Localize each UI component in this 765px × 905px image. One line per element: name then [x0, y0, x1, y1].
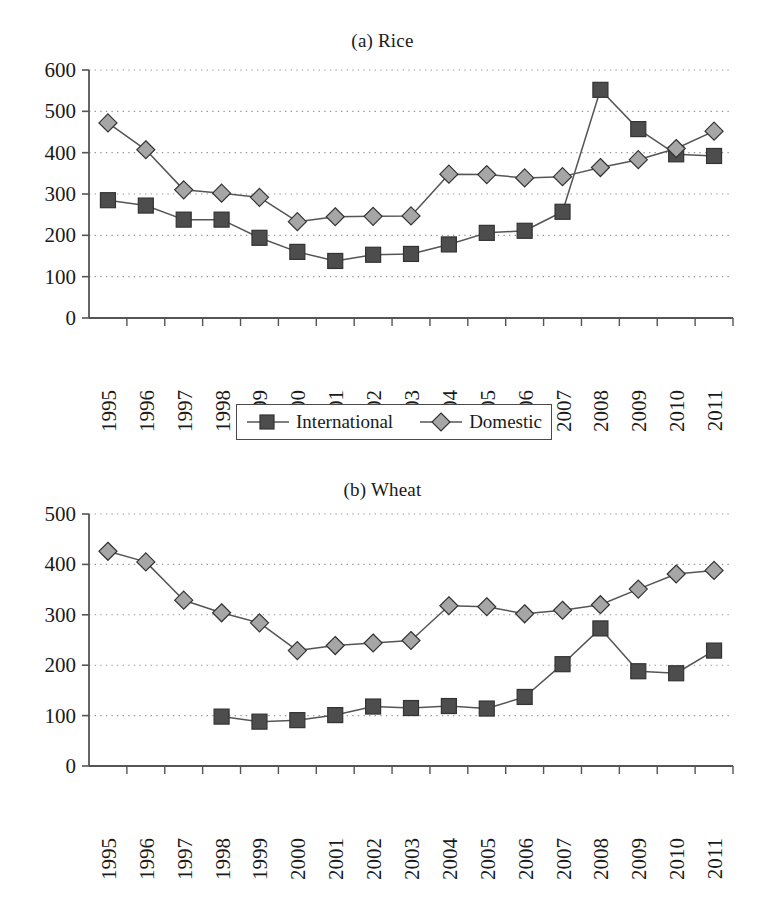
y-tick-label: 200 — [45, 223, 77, 247]
square-marker — [441, 699, 456, 714]
diamond-marker — [629, 151, 647, 169]
diamond-marker — [591, 159, 609, 177]
square-marker — [366, 699, 381, 714]
y-tick-label: 200 — [45, 653, 77, 677]
y-tick-label: 300 — [45, 603, 77, 627]
square-marker — [404, 701, 419, 716]
diamond-marker — [288, 642, 306, 660]
square-marker — [252, 714, 267, 729]
y-tick-label: 100 — [45, 704, 77, 728]
diamond-marker — [667, 565, 685, 583]
y-tick-label: 300 — [45, 182, 77, 206]
y-tick-label: 500 — [45, 502, 77, 526]
diamond-marker — [213, 604, 231, 622]
diamond-marker — [516, 605, 534, 623]
square-marker — [707, 643, 722, 658]
x-tick-label: 2001 — [324, 838, 348, 880]
square-marker-icon — [246, 413, 290, 431]
y-tick-label: 100 — [45, 265, 77, 289]
diamond-marker — [326, 637, 344, 655]
diamond-marker — [364, 207, 382, 225]
square-marker — [631, 664, 646, 679]
diamond-marker — [326, 208, 344, 226]
x-tick-label: 2004 — [438, 838, 462, 881]
x-tick-label: 1995 — [97, 838, 121, 880]
diamond-marker — [99, 114, 117, 132]
square-marker — [252, 230, 267, 245]
square-marker — [479, 701, 494, 716]
diamond-marker — [364, 634, 382, 652]
rice-plot-svg: 0100200300400500600199519961997199819992… — [0, 0, 765, 452]
x-tick-label: 1997 — [173, 390, 197, 432]
legend-label-domestic: Domestic — [469, 411, 542, 433]
square-marker — [176, 212, 191, 227]
x-tick-label: 1999 — [248, 838, 272, 880]
square-marker — [555, 657, 570, 672]
diamond-marker — [288, 213, 306, 231]
square-marker — [517, 689, 532, 704]
square-marker — [328, 708, 343, 723]
square-marker — [593, 621, 608, 636]
square-marker — [100, 193, 115, 208]
y-tick-label: 500 — [45, 99, 77, 123]
diamond-marker — [250, 614, 268, 632]
plot-area-wheat: 0100200300400500199519961997199819992000… — [0, 452, 765, 905]
square-marker — [214, 212, 229, 227]
square-marker — [707, 148, 722, 163]
diamond-marker-icon — [419, 412, 463, 432]
x-tick-label: 2006 — [514, 838, 538, 880]
x-tick-label: 1996 — [135, 838, 159, 880]
legend-label-international: International — [296, 411, 393, 433]
square-marker — [404, 246, 419, 261]
x-tick-label: 2009 — [627, 390, 651, 432]
diamond-marker — [99, 542, 117, 560]
legend-entry-domestic: Domestic — [419, 411, 542, 433]
x-tick-label: 2008 — [589, 390, 613, 432]
square-marker — [328, 253, 343, 268]
x-tick-label: 2007 — [552, 390, 576, 432]
wheat-plot-svg: 0100200300400500199519961997199819992000… — [0, 452, 765, 905]
square-marker — [517, 223, 532, 238]
square-marker — [214, 709, 229, 724]
diamond-marker — [705, 122, 723, 140]
x-tick-label: 1998 — [211, 838, 235, 880]
x-tick-label: 2003 — [400, 838, 424, 880]
diamond-marker — [478, 166, 496, 184]
x-tick-label: 2002 — [362, 838, 386, 880]
y-tick-label: 400 — [45, 141, 77, 165]
square-marker — [290, 713, 305, 728]
diamond-marker — [250, 188, 268, 206]
figure-page: (a) Rice 0100200300400500600199519961997… — [0, 0, 765, 905]
diamond-marker — [629, 580, 647, 598]
chart-panel-wheat: (b) Wheat 010020030040050019951996199719… — [0, 452, 765, 905]
square-marker — [290, 244, 305, 259]
square-marker — [631, 122, 646, 137]
chart-panel-rice: (a) Rice 0100200300400500600199519961997… — [0, 0, 765, 452]
diamond-marker — [516, 169, 534, 187]
y-tick-label: 0 — [66, 754, 77, 778]
diamond-marker — [478, 598, 496, 616]
diamond-marker — [213, 184, 231, 202]
x-tick-label: 2008 — [589, 838, 613, 880]
square-marker — [555, 204, 570, 219]
x-tick-label: 2000 — [286, 838, 310, 880]
y-tick-label: 400 — [45, 552, 77, 576]
x-tick-label: 2005 — [476, 838, 500, 880]
x-tick-label: 1996 — [135, 390, 159, 432]
legend-rice: International Domestic — [236, 404, 552, 440]
diamond-marker — [591, 596, 609, 614]
x-tick-label: 1998 — [211, 390, 235, 432]
plot-area-rice: 0100200300400500600199519961997199819992… — [0, 0, 765, 452]
y-tick-label: 600 — [45, 58, 77, 82]
x-tick-label: 2010 — [665, 390, 689, 432]
x-tick-label: 2011 — [703, 838, 727, 879]
square-marker — [593, 82, 608, 97]
square-marker — [669, 666, 684, 681]
diamond-marker — [554, 168, 572, 186]
x-tick-label: 2009 — [627, 838, 651, 880]
legend-entry-international: International — [246, 411, 393, 433]
diamond-marker — [554, 601, 572, 619]
y-tick-label: 0 — [66, 306, 77, 330]
x-tick-label: 2007 — [552, 838, 576, 880]
x-tick-label: 2011 — [703, 390, 727, 431]
